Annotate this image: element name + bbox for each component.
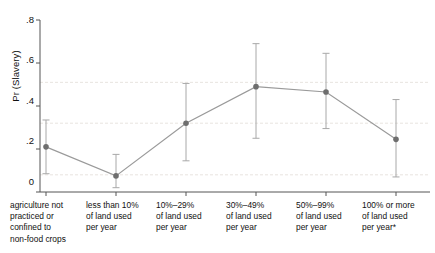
x-category-3-line-2: per year	[226, 222, 294, 233]
chart-container: Pr (Slavery) .8 .6 .4 .2 0 agriculture n…	[0, 0, 435, 253]
series-path	[46, 87, 396, 176]
x-category-0-line-1: practiced or	[10, 211, 78, 222]
axes	[36, 20, 430, 196]
x-category-1-line-1: of land used	[86, 211, 154, 222]
x-category-2-line-2: per year	[156, 222, 224, 233]
x-category-5-line-2: per year*	[362, 222, 430, 233]
gridlines	[40, 82, 430, 174]
x-category-3-line-1: of land used	[226, 211, 294, 222]
x-category-label-5: 100% or moreof land usedper year*	[362, 200, 430, 234]
data-point-markers	[43, 84, 399, 179]
x-category-2-line-0: 10%–29%	[156, 200, 224, 211]
x-category-5-line-1: of land used	[362, 211, 430, 222]
data-point-1	[113, 173, 119, 179]
x-category-4-line-2: per year	[296, 222, 364, 233]
x-category-4-line-0: 50%–99%	[296, 200, 364, 211]
data-point-0	[43, 144, 49, 150]
x-category-2-line-1: of land used	[156, 211, 224, 222]
x-category-4-line-1: of land used	[296, 211, 364, 222]
x-category-1-line-2: per year	[86, 222, 154, 233]
data-point-4	[323, 89, 329, 95]
data-point-5	[393, 137, 399, 143]
data-point-3	[253, 84, 259, 90]
x-category-5-line-0: 100% or more	[362, 200, 430, 211]
error-bars	[43, 44, 400, 188]
data-point-2	[183, 120, 189, 126]
series-line	[46, 87, 396, 176]
x-category-0-line-2: confined to	[10, 222, 78, 233]
x-category-3-line-0: 30%–49%	[226, 200, 294, 211]
x-category-1-line-0: less than 10%	[86, 200, 154, 211]
x-category-label-4: 50%–99%of land usedper year	[296, 200, 364, 234]
x-category-label-1: less than 10%of land usedper year	[86, 200, 154, 234]
x-category-label-0: agriculture notpracticed orconfined tono…	[10, 200, 78, 245]
x-category-0-line-0: agriculture not	[10, 200, 78, 211]
x-category-0-line-3: non-food crops	[10, 234, 78, 245]
x-category-label-2: 10%–29%of land usedper year	[156, 200, 224, 234]
x-category-label-3: 30%–49%of land usedper year	[226, 200, 294, 234]
